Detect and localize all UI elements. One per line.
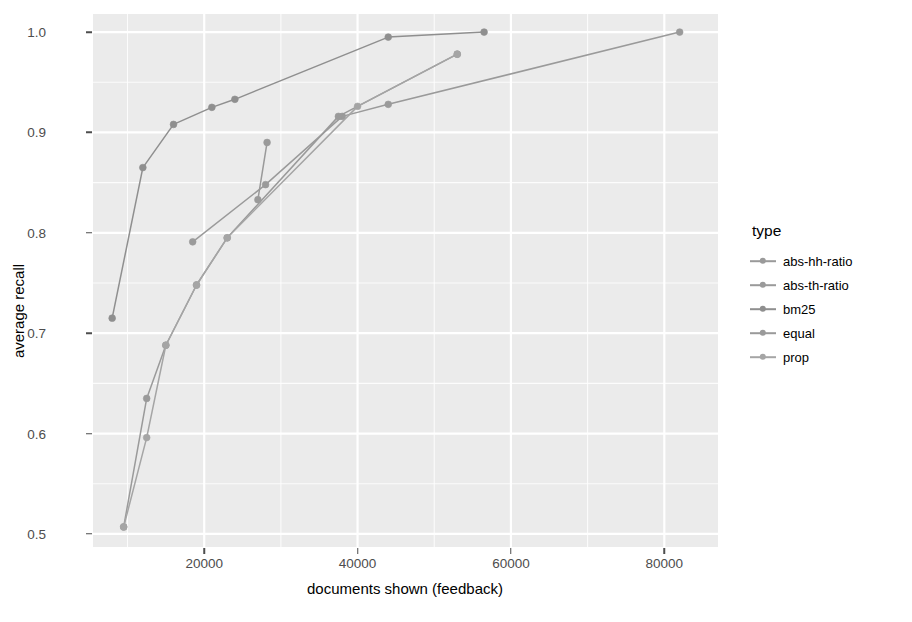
data-point	[193, 282, 200, 289]
data-point	[454, 51, 461, 58]
legend-item-prop[interactable]: prop	[750, 345, 905, 369]
x-tick-label: 60000	[492, 556, 530, 571]
y-tick-label: 0.5	[27, 526, 46, 541]
x-tick-mark	[203, 548, 205, 554]
data-point	[676, 29, 683, 36]
legend-key-dot	[760, 258, 766, 264]
legend-item-equal[interactable]: equal	[750, 321, 905, 345]
data-point	[162, 342, 169, 349]
legend-item-label: abs-th-ratio	[783, 278, 849, 293]
plot-area	[93, 14, 718, 547]
series-line	[112, 32, 484, 318]
x-tick-mark	[510, 548, 512, 554]
x-tick-label: 80000	[646, 556, 684, 571]
y-tick-label: 0.6	[27, 426, 46, 441]
y-axis-title: average recall	[10, 264, 27, 358]
series-abs-hh-ratio	[189, 29, 683, 246]
legend-key-icon	[750, 251, 776, 271]
legend-key-dot	[760, 354, 766, 360]
legend-key-dot	[760, 282, 766, 288]
legend-key-dot	[760, 306, 766, 312]
plot-panel	[93, 14, 718, 547]
legend-items: abs-hh-ratioabs-th-ratiobm25equalprop	[750, 249, 905, 369]
y-tick-mark	[86, 533, 92, 535]
series-line	[193, 32, 680, 242]
legend: type abs-hh-ratioabs-th-ratiobm25equalpr…	[750, 222, 905, 369]
data-point	[143, 434, 150, 441]
y-tick-label: 1.0	[27, 25, 46, 40]
y-tick-mark	[86, 433, 92, 435]
data-point	[224, 234, 231, 241]
data-point	[385, 34, 392, 41]
legend-key-dot	[760, 330, 766, 336]
data-point	[231, 96, 238, 103]
data-point	[189, 238, 196, 245]
data-point	[143, 395, 150, 402]
data-point	[170, 121, 177, 128]
y-tick-mark	[86, 132, 92, 134]
legend-key-icon	[750, 323, 776, 343]
y-tick-label: 0.8	[27, 225, 46, 240]
data-point	[139, 164, 146, 171]
legend-item-label: equal	[783, 326, 815, 341]
y-tick-mark	[86, 232, 92, 234]
legend-item-label: bm25	[783, 302, 816, 317]
x-axis-title: documents shown (feedback)	[307, 580, 503, 597]
legend-key-icon	[750, 299, 776, 319]
x-tick-label: 40000	[339, 556, 377, 571]
data-point	[262, 181, 269, 188]
legend-item-abs-hh-ratio[interactable]: abs-hh-ratio	[750, 249, 905, 273]
data-point	[264, 139, 271, 146]
data-point	[335, 113, 342, 120]
legend-title: type	[752, 222, 905, 240]
y-tick-mark	[86, 31, 92, 33]
data-point	[385, 101, 392, 108]
series-line	[258, 142, 267, 199]
data-point	[120, 524, 127, 531]
x-tick-mark	[664, 548, 666, 554]
legend-key-icon	[750, 347, 776, 367]
legend-item-bm25[interactable]: bm25	[750, 297, 905, 321]
legend-item-label: abs-hh-ratio	[783, 254, 852, 269]
legend-item-abs-th-ratio[interactable]: abs-th-ratio	[750, 273, 905, 297]
legend-key-icon	[750, 275, 776, 295]
data-point	[354, 103, 361, 110]
y-tick-mark	[86, 332, 92, 334]
series-bm25	[109, 29, 488, 322]
x-tick-label: 20000	[185, 556, 223, 571]
x-axis-ticks: 20000400006000080000	[0, 556, 912, 576]
y-tick-label: 0.7	[27, 326, 46, 341]
data-point	[208, 104, 215, 111]
x-tick-mark	[357, 548, 359, 554]
chart-container: 0.50.60.70.80.91.0 20000400006000080000 …	[0, 0, 912, 622]
data-point	[481, 29, 488, 36]
y-tick-label: 0.9	[27, 125, 46, 140]
data-point	[109, 315, 116, 322]
legend-item-label: prop	[783, 350, 809, 365]
